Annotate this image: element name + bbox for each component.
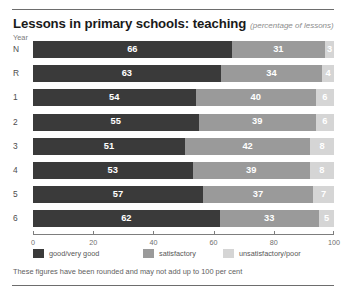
bar-segment: 40: [196, 89, 316, 106]
y-axis-tick-label: 6: [13, 210, 27, 227]
y-axis-tick-label: 3: [13, 138, 27, 155]
legend-item: satisfactory: [143, 249, 196, 258]
bar-segment: 3: [325, 41, 334, 58]
bar-value-label: 5: [324, 214, 329, 223]
legend-label: satisfactory: [159, 249, 196, 258]
bar-value-label: 63: [122, 69, 132, 78]
bar-segment: 33: [220, 210, 319, 227]
y-axis-tick-label: 5: [13, 186, 27, 203]
bar-value-label: 4: [325, 69, 330, 78]
legend-swatch: [143, 249, 154, 258]
bar-value-label: 57: [113, 190, 123, 199]
x-axis-tick-label: 0: [31, 238, 35, 247]
stacked-bar: 57377: [33, 186, 334, 203]
x-axis-tick-label: 60: [210, 238, 218, 247]
bar-segment: 57: [33, 186, 203, 203]
bar-segment: 37: [203, 186, 313, 203]
legend-swatch: [223, 249, 234, 258]
chart-row: N66313: [13, 41, 334, 58]
bar-segment: 8: [310, 162, 334, 179]
bar-value-label: 51: [104, 142, 114, 151]
chart-header: Lessons in primary schools: teaching(per…: [13, 14, 334, 32]
x-axis-tick-label: 40: [149, 238, 157, 247]
bar-segment: 31: [232, 41, 325, 58]
chart-figure: Lessons in primary schools: teaching(per…: [0, 0, 343, 292]
bar-value-label: 54: [109, 93, 119, 102]
bottom-divider-rule: [12, 285, 334, 286]
chart-row: 351428: [13, 138, 334, 155]
bar-segment: 54: [33, 89, 196, 106]
y-axis-tick-label: R: [13, 65, 27, 82]
y-axis-tick-label: 1: [13, 89, 27, 106]
chart-row: R63344: [13, 65, 334, 82]
bar-segment: 6: [316, 114, 334, 131]
bar-segment: 39: [199, 114, 316, 131]
bar-segment: 66: [33, 41, 232, 58]
legend-item: unsatisfactory/poor: [223, 249, 301, 258]
bar-segment: 53: [33, 162, 193, 179]
bar-value-label: 6: [322, 93, 327, 102]
bar-value-label: 37: [253, 190, 263, 199]
stacked-bar: 55396: [33, 114, 334, 131]
x-axis-tick: [33, 231, 34, 235]
bar-segment: 62: [33, 210, 220, 227]
stacked-bar: 54406: [33, 89, 334, 106]
bar-value-label: 39: [252, 117, 262, 126]
page-title: Lessons in primary schools: teaching: [13, 16, 246, 31]
bar-value-label: 33: [264, 214, 274, 223]
x-axis-tick: [214, 231, 215, 235]
bar-value-label: 66: [127, 45, 137, 54]
bar-value-label: 8: [319, 166, 324, 175]
bar-value-label: 53: [108, 166, 118, 175]
bar-segment: 4: [322, 65, 334, 82]
bar-value-label: 6: [322, 117, 327, 126]
x-axis-line: [33, 234, 334, 235]
legend-swatch: [33, 249, 44, 258]
bar-segment: 63: [33, 65, 221, 82]
y-axis-tick-label: N: [13, 41, 27, 58]
bar-segment: 55: [33, 114, 199, 131]
stacked-bar: 63344: [33, 65, 334, 82]
x-axis-tick: [153, 231, 154, 235]
legend-label: good/very good: [49, 249, 99, 258]
stacked-bar: 66313: [33, 41, 334, 58]
x-axis-tick-label: 100: [328, 238, 340, 247]
bar-segment: 51: [33, 138, 185, 155]
y-axis-tick-label: 2: [13, 114, 27, 131]
bar-value-label: 55: [111, 117, 121, 126]
bar-segment: 5: [319, 210, 334, 227]
bar-segment: 39: [193, 162, 310, 179]
top-divider-rule: [12, 9, 334, 10]
x-axis-tick: [333, 231, 334, 235]
plot-area: N66313R633441544062553963514284533985573…: [13, 41, 334, 234]
bar-segment: 6: [316, 89, 334, 106]
x-axis-tick: [93, 231, 94, 235]
x-axis-tick-label: 80: [270, 238, 278, 247]
stacked-bar: 62335: [33, 210, 334, 227]
x-axis-tick-label: 20: [89, 238, 97, 247]
legend-item: good/very good: [33, 249, 99, 258]
chart-subtitle: (percentage of lessons): [250, 21, 334, 30]
chart-row: 255396: [13, 114, 334, 131]
stacked-bar: 51428: [33, 138, 334, 155]
y-axis-tick-label: 4: [13, 162, 27, 179]
legend-label: unsatisfactory/poor: [239, 249, 301, 258]
bar-value-label: 39: [246, 166, 256, 175]
bar-value-label: 31: [273, 45, 283, 54]
x-axis-tick: [274, 231, 275, 235]
bar-value-label: 8: [320, 142, 325, 151]
bar-segment: 7: [313, 186, 334, 203]
bar-value-label: 3: [327, 45, 332, 54]
chart-row: 453398: [13, 162, 334, 179]
bar-segment: 8: [310, 138, 334, 155]
bar-value-label: 7: [321, 190, 326, 199]
chart-row: 662335: [13, 210, 334, 227]
chart-row: 557377: [13, 186, 334, 203]
stacked-bar: 53398: [33, 162, 334, 179]
bar-value-label: 42: [242, 142, 252, 151]
chart-footnote: These figures have been rounded and may …: [13, 267, 242, 276]
bar-segment: 34: [221, 65, 322, 82]
bar-segment: 42: [185, 138, 310, 155]
bar-value-label: 34: [266, 69, 276, 78]
bar-value-label: 62: [121, 214, 131, 223]
